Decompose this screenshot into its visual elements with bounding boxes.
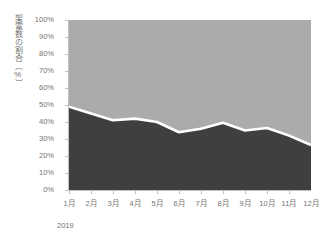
x-axis-tick-label: 7月 — [195, 199, 206, 209]
y-axis-tick-label: 100% — [22, 16, 54, 24]
y-axis-tick-label: 20% — [22, 152, 54, 160]
plot-area — [69, 20, 311, 190]
area-chart: ・・・・・・ 架電数の割合（%） 100%90%80%70%60%50%40%3… — [0, 0, 329, 246]
x-axis-tick-label: 2月 — [85, 199, 96, 209]
y-axis-tick-labels: 100%90%80%70%60%50%40%30%20%10%0% — [22, 14, 54, 198]
x-axis-tick-label: 5月 — [151, 199, 162, 209]
y-axis-tick-label: 60% — [22, 84, 54, 92]
x-axis-group-label: 2019 — [57, 221, 74, 231]
x-axis-tick-label: 12月 — [303, 199, 318, 209]
x-axis-tick-labels: 1月2月3月4月5月6月7月8月9月10月11月12月 — [69, 199, 311, 211]
y-axis-tick-label: 40% — [22, 118, 54, 126]
x-axis-tick-label: 10月 — [259, 199, 274, 209]
y-axis-tick-label: 10% — [22, 169, 54, 177]
x-axis-tick-label: 3月 — [107, 199, 118, 209]
y-axis-tick-label: 50% — [22, 101, 54, 109]
y-axis-tick-label: 80% — [22, 50, 54, 58]
x-axis-tick-label: 6月 — [173, 199, 184, 209]
x-axis-spine — [58, 190, 311, 196]
y-axis-spine — [58, 19, 69, 191]
x-axis-tick-label: 8月 — [217, 199, 228, 209]
y-axis-tick-label: 0% — [22, 186, 54, 194]
y-axis-tick-label: 70% — [22, 67, 54, 75]
y-axis-title: 架電数の割合（%） — [8, 14, 22, 106]
y-axis-tick-label: 30% — [22, 135, 54, 143]
x-axis-tick-label: 1月 — [63, 199, 74, 209]
y-axis-tick-label: 90% — [22, 33, 54, 41]
top-artifact-text: ・・・・・・ — [8, 1, 70, 8]
x-axis-tick-label: 9月 — [239, 199, 250, 209]
x-axis-tick-label: 11月 — [282, 199, 297, 209]
x-axis-tick-label: 4月 — [129, 199, 140, 209]
